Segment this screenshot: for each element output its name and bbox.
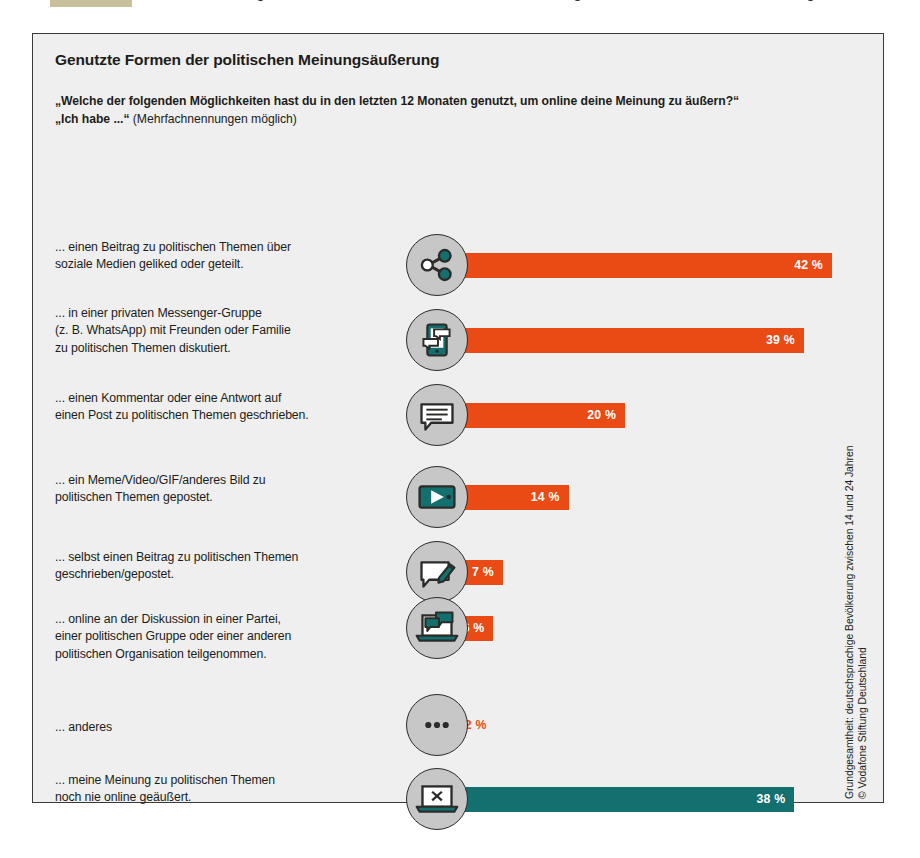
row-label-comment-reply: ... einen Kommentar oder eine Antwort au… xyxy=(55,390,405,425)
bar-rows-container: ... einen Beitrag zu politischen Themen … xyxy=(33,34,885,804)
row-label-line: politischen Themen gepostet. xyxy=(55,489,405,506)
share-nodes-icon xyxy=(406,234,468,296)
row-label-line: soziale Medien geliked oder geteilt. xyxy=(55,256,405,273)
video-player-icon xyxy=(406,466,468,528)
ellipsis-icon xyxy=(406,694,468,756)
artifact-glyph xyxy=(573,0,582,1)
artifact-swatch xyxy=(50,0,132,7)
row-label-other: ... anderes xyxy=(55,719,405,736)
bar-value-comment-reply: 20 % xyxy=(587,403,616,428)
source-universe-text: Grundgesamtheit: deutschsprachige Bevölk… xyxy=(844,446,855,799)
row-label-line: ... ein Meme/Video/GIF/anderes Bild zu xyxy=(55,472,405,489)
row-label-party-discussion: ... online an der Diskussion in einer Pa… xyxy=(55,611,405,663)
bar-value-own-post: 7 % xyxy=(472,560,494,585)
row-label-line: ... selbst einen Beitrag zu politischen … xyxy=(55,549,405,566)
row-label-line: politischen Organisation teilgenommen. xyxy=(55,646,405,663)
bar-value-social-share: 42 % xyxy=(794,253,823,278)
row-label-line: ... einen Beitrag zu politischen Themen … xyxy=(55,239,405,256)
bar-value-other: 2 % xyxy=(465,713,487,738)
phone-messages-icon xyxy=(406,309,468,371)
row-label-messenger-group: ... in einer privaten Messenger-Gruppe(z… xyxy=(55,305,405,357)
bar-value-messenger-group: 39 % xyxy=(766,328,795,353)
source-copyright-text: © Vodafone Stiftung Deutschland xyxy=(857,647,868,799)
artifact-glyph xyxy=(256,0,265,1)
row-label-line: ... online an der Diskussion in einer Pa… xyxy=(55,611,405,628)
row-label-line: noch nie online geäußert. xyxy=(55,789,405,806)
speech-bubble-icon xyxy=(406,384,468,446)
row-label-line: einer politischen Gruppe oder einer ande… xyxy=(55,628,405,645)
bar-social-share: 42 % xyxy=(437,253,832,278)
row-label-line: zu politischen Themen diskutiert. xyxy=(55,340,405,357)
row-label-line: ... in einer privaten Messenger-Gruppe xyxy=(55,305,405,322)
bar-value-meme-video-gif: 14 % xyxy=(531,485,560,510)
laptop-x-icon xyxy=(406,768,468,830)
row-label-line: (z. B. WhatsApp) mit Freunden oder Famil… xyxy=(55,322,405,339)
artifact-glyph xyxy=(806,0,815,1)
row-label-own-post: ... selbst einen Beitrag zu politischen … xyxy=(55,549,405,584)
row-label-line: geschrieben/gepostet. xyxy=(55,566,405,583)
bar-never-expressed: 38 % xyxy=(437,787,794,812)
bubble-pencil-icon xyxy=(406,541,468,603)
row-label-line: ... einen Kommentar oder eine Antwort au… xyxy=(55,390,405,407)
laptop-bubble-icon xyxy=(406,597,468,659)
row-label-never-expressed: ... meine Meinung zu politischen Themenn… xyxy=(55,772,405,807)
page-scan-artifact xyxy=(0,0,920,18)
row-label-line: ... meine Meinung zu politischen Themen xyxy=(55,772,405,789)
bar-messenger-group: 39 % xyxy=(437,328,804,353)
chart-panel: Genutzte Formen der politischen Meinungs… xyxy=(32,33,884,803)
row-label-social-share: ... einen Beitrag zu politischen Themen … xyxy=(55,239,405,274)
source-note: Grundgesamtheit: deutschsprachige Bevölk… xyxy=(855,429,877,799)
row-label-line: ... anderes xyxy=(55,719,405,736)
row-label-meme-video-gif: ... ein Meme/Video/GIF/anderes Bild zupo… xyxy=(55,472,405,507)
row-label-line: einen Post zu politischen Themen geschri… xyxy=(55,407,405,424)
bar-value-never-expressed: 38 % xyxy=(757,787,786,812)
